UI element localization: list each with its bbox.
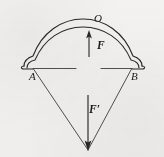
bow-force-figure: O A B F F′: [0, 0, 164, 157]
force-fprime-label: F′: [89, 104, 100, 116]
bow-nock-right: [132, 66, 145, 69]
apex-label-o: O: [94, 13, 102, 24]
force-f-label: F: [97, 40, 105, 52]
figure-canvas: [0, 0, 164, 157]
bow-limb-outer-curve: [24, 19, 142, 66]
tension-line-left: [34, 69, 89, 150]
right-tip-label-b: B: [131, 71, 138, 82]
left-tip-label-a: A: [29, 71, 36, 82]
bow-limb-inner-curve: [27, 27, 139, 68]
